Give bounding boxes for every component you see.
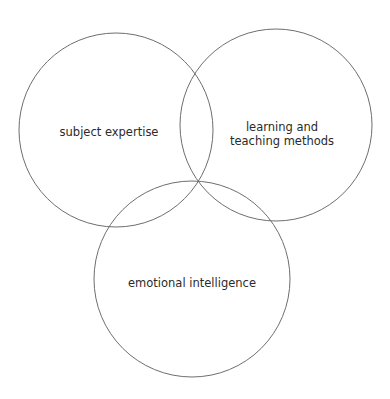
label-text: emotional intelligence <box>128 276 256 290</box>
label-line-1: learning and <box>230 120 334 134</box>
venn-diagram <box>0 0 390 399</box>
label-text: subject expertise <box>60 125 159 139</box>
label-line-2: teaching methods <box>230 134 334 148</box>
label-learning-teaching-methods: learning and teaching methods <box>230 120 334 148</box>
label-emotional-intelligence: emotional intelligence <box>128 276 256 290</box>
label-subject-expertise: subject expertise <box>60 125 159 139</box>
